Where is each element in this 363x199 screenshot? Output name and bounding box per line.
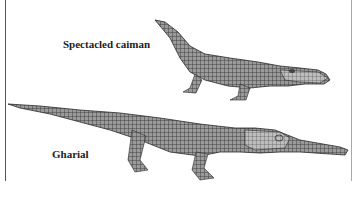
gharial-label: Gharial [52, 148, 89, 160]
crocodilian-illustration [0, 0, 363, 199]
gharial-drawing [8, 104, 348, 180]
caiman-drawing [155, 20, 330, 100]
caiman-label: Spectacled caiman [63, 38, 150, 50]
